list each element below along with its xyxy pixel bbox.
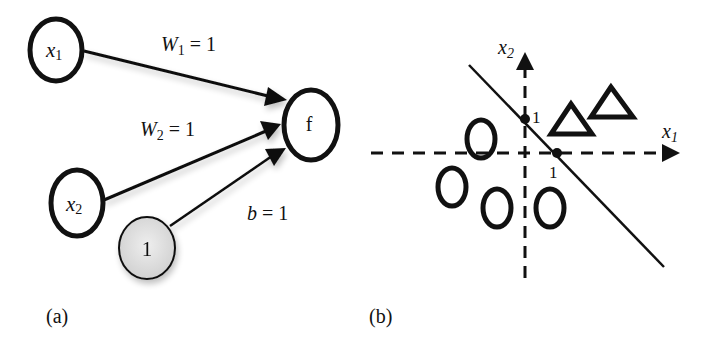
circle-point bbox=[536, 189, 564, 227]
node-x1: x1 bbox=[30, 19, 82, 81]
node-bias-label: 1 bbox=[142, 237, 153, 261]
circle-point bbox=[483, 189, 511, 227]
weight-w2-label: W2 = 1 bbox=[140, 118, 195, 143]
axis-x2-label: x2 bbox=[497, 36, 514, 61]
panel-b-decision-space: x1 x2 1 1 (b) bbox=[369, 36, 680, 328]
intercept-x1-label: 1 bbox=[549, 163, 558, 182]
triangle-point bbox=[551, 104, 592, 134]
circle-point bbox=[438, 168, 466, 206]
axis-x1-label: x1 bbox=[661, 120, 678, 145]
caption-a: (a) bbox=[46, 305, 68, 328]
edge-x1-to-f bbox=[84, 51, 287, 106]
triangle-point bbox=[591, 87, 633, 117]
class-triangles bbox=[551, 87, 633, 134]
axis-x2-arrow-icon bbox=[516, 52, 534, 70]
node-x2: x2 bbox=[51, 170, 103, 236]
bias-b-label: b = 1 bbox=[247, 202, 288, 224]
node-output-label: f bbox=[306, 113, 313, 135]
decision-boundary-line bbox=[469, 65, 664, 267]
intercept-x2-label: 1 bbox=[532, 108, 541, 127]
node-output-f: f bbox=[284, 90, 338, 160]
class-circles bbox=[438, 120, 564, 227]
node-bias: 1 bbox=[119, 217, 175, 279]
intercept-x2-point bbox=[520, 114, 530, 124]
weight-w1-label: W1 = 1 bbox=[161, 33, 216, 58]
intercept-x1-point bbox=[552, 148, 562, 158]
axis-x1-arrow-icon bbox=[662, 144, 680, 162]
diagram-canvas: x1 x2 1 f W1 = 1 W2 = 1 b = 1 (a) x1 bbox=[0, 0, 708, 348]
panel-a-perceptron: x1 x2 1 f W1 = 1 W2 = 1 b = 1 (a) bbox=[30, 19, 338, 328]
caption-b: (b) bbox=[369, 305, 392, 328]
axis-x2: x2 bbox=[497, 36, 534, 278]
